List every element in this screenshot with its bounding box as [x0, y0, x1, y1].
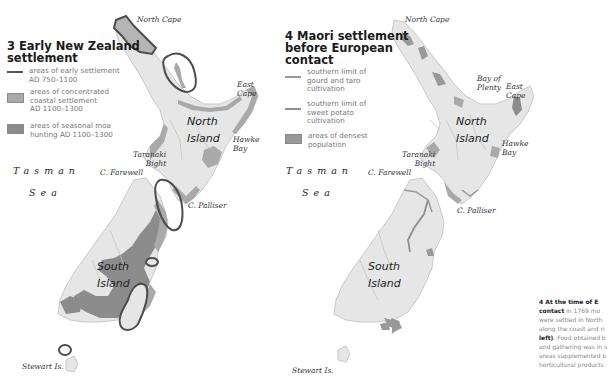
label-text: Tasman	[13, 165, 80, 176]
caption-text: . Food obtained b	[553, 334, 605, 341]
label-sea: Sea	[302, 187, 335, 198]
caption-line: left). Food obtained b	[539, 333, 613, 342]
label-text: Bight	[133, 160, 166, 169]
map3-title-line2: settlement	[7, 52, 140, 64]
label-text: North	[187, 113, 220, 130]
caption-line: horticultural products	[539, 360, 613, 369]
label-text: South	[368, 258, 401, 275]
legend-text: AD 1100–1300	[30, 105, 109, 114]
figure-caption: 4 At the time of E contact in 1769 mo we…	[539, 297, 613, 369]
label-text: Island	[456, 130, 489, 147]
label-text: Cape	[506, 92, 525, 101]
label-north-island: North Island	[187, 113, 220, 147]
label-cape-farewell: C. Farewell	[368, 169, 411, 178]
legend-text: hunting AD 1100–1300	[30, 131, 113, 140]
box-swatch-light-icon	[7, 93, 24, 103]
caption-text: in 1769 mo	[564, 307, 600, 314]
label-south-island: South Island	[97, 258, 130, 292]
label-taranaki-bight: Taranaki Bight	[402, 151, 435, 168]
legend-densest-population: areas of densest population	[285, 132, 368, 149]
caption-line: 4 At the time of E	[539, 297, 613, 306]
label-east-cape: East Cape	[506, 83, 525, 100]
label-text: Sea	[29, 187, 62, 198]
south-island-shape-map4	[334, 178, 444, 334]
label-stewart-island: Stewart Is.	[22, 363, 64, 372]
legend-text: population	[308, 141, 368, 150]
line-swatch-limit-icon	[285, 76, 301, 78]
label-text: Island	[97, 275, 130, 292]
south-island-shape-map3	[58, 178, 168, 322]
label-text: Island	[368, 275, 401, 292]
north-island-shape-map4	[392, 20, 534, 204]
caption-bold: left)	[539, 334, 553, 341]
label-text: Plenty	[477, 84, 501, 93]
label-cape-farewell: C. Farewell	[100, 169, 143, 178]
label-text: Cape	[237, 90, 256, 99]
label-cape-palliser: C. Palliser	[457, 207, 496, 216]
map3-title: 3 Early New Zealand settlement	[7, 40, 140, 64]
line-swatch-dark-icon	[7, 71, 23, 73]
legend-early-settlement: areas of early settlement AD 750–1100	[7, 67, 120, 84]
label-north-cape: North Cape	[405, 16, 449, 25]
label-east-cape: East Cape	[237, 81, 256, 98]
label-cape-palliser: C. Palliser	[188, 202, 227, 211]
legend-text: cultivation	[307, 85, 366, 94]
map4-title: 4 Maori settlement before European conta…	[285, 30, 409, 66]
label-text: Bay	[502, 149, 528, 158]
caption-line: along the coast and ri	[539, 324, 613, 333]
box-swatch-dark-icon	[7, 124, 24, 134]
label-north-island: North Island	[456, 113, 489, 147]
label-south-island: South Island	[368, 258, 401, 292]
label-bay-of-plenty: Bay of Plenty	[477, 75, 501, 92]
label-hawke-bay: Hawke Bay	[502, 140, 528, 157]
legend-text: AD 750–1100	[29, 76, 120, 85]
label-text: Bight	[402, 160, 435, 169]
label-text: Bay	[233, 145, 259, 154]
label-text: North	[456, 113, 489, 130]
label-sea: Sea	[29, 187, 62, 198]
label-hawke-bay: Hawke Bay	[233, 136, 259, 153]
label-stewart-island: Stewart Is.	[292, 367, 334, 376]
caption-line: were settled in North	[539, 315, 613, 324]
map4-title-line3: contact	[285, 54, 409, 66]
label-text: South	[97, 258, 130, 275]
legend-gourd-taro-limit: southern limit of gourd and taro cultiva…	[285, 68, 366, 94]
caption-line: and gathering was in s	[539, 342, 613, 351]
caption-line: areas supplemented b	[539, 351, 613, 360]
legend-text: cultivation	[307, 117, 366, 126]
legend-moa-hunting: areas of seasonal moa hunting AD 1100–13…	[7, 122, 113, 139]
label-text: Sea	[302, 187, 335, 198]
label-tasman-sea: Tasman	[13, 165, 80, 176]
label-text: Island	[187, 130, 220, 147]
label-north-cape: North Cape	[137, 16, 181, 25]
caption-bold: contact	[539, 307, 564, 314]
legend-sweet-potato-limit: southern limit of sweet potato cultivati…	[285, 100, 366, 126]
box-swatch-dark-icon	[285, 134, 302, 144]
label-text: Tasman	[286, 165, 353, 176]
legend-coastal-settlement: areas of concentrated coastal settlement…	[7, 88, 109, 114]
label-tasman-sea: Tasman	[286, 165, 353, 176]
line-swatch-limit-icon	[285, 108, 301, 110]
label-taranaki-bight: Taranaki Bight	[133, 151, 166, 168]
caption-line: contact in 1769 mo	[539, 306, 613, 315]
caption-bold: 4 At the time of E	[539, 298, 598, 305]
